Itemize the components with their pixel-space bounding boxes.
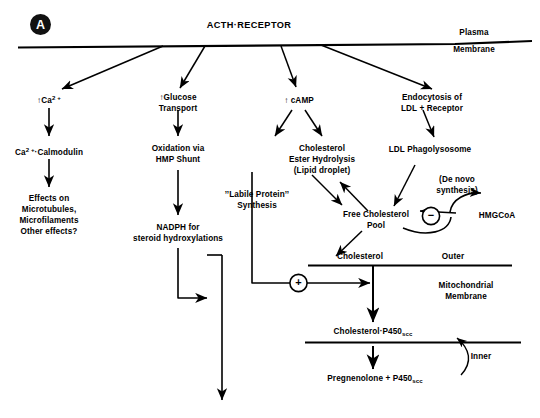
- node-cholesterol-p450scc-text: Cholesterol·P450: [334, 327, 403, 336]
- node-labile-protein-line1: ’’Labile Protein’’: [225, 190, 289, 201]
- mitochondrial-membrane-label-line2: Membrane: [445, 292, 487, 303]
- node-cholesterol-ester-line2: Ester Hydrolysis: [289, 155, 355, 166]
- positive-sign-glyph: +: [295, 277, 302, 288]
- node-hmgcoa: HMGCoA: [479, 211, 516, 222]
- node-calcium-superscript: 2 +: [52, 94, 61, 101]
- node-ldl-phagolysosome: LDL Phagolysosome: [389, 145, 472, 156]
- node-endocytosis-line2: LDL + Receptor: [401, 104, 463, 115]
- node-effects-line1: Effects on: [29, 194, 70, 205]
- node-calmodulin-suffix: ·Calmodulin: [35, 148, 83, 157]
- arrow-membrane-to-glucose: [180, 46, 205, 88]
- node-pregnenolone-text: Pregnenolone + P450: [327, 374, 412, 383]
- arrow-membrane-to-camp: [281, 46, 296, 87]
- node-cholesterol-ester-line1: Cholesterol: [299, 144, 345, 155]
- figure-title: ACTH·RECEPTOR: [207, 20, 292, 31]
- plasma-membrane-label-bottom: Membrane: [453, 45, 495, 56]
- node-effects-line4: Other effects?: [21, 227, 78, 238]
- node-endocytosis-line1: Endocytosis of: [402, 93, 462, 104]
- outer-membrane-label: Outer: [442, 252, 464, 263]
- node-camp: ↑ cAMP: [284, 96, 314, 107]
- panel-label-badge: A: [30, 14, 51, 35]
- arrow-nadph-to-spine: [178, 248, 207, 298]
- node-calmodulin-prefix: Ca: [15, 148, 26, 157]
- node-cholesterol-outer: Cholesterol: [337, 252, 383, 263]
- node-effects-line3: Microfilaments: [19, 216, 78, 227]
- node-glucose-transport-line2: Transport: [159, 104, 198, 115]
- node-free-cholesterol-pool-line2: Pool: [367, 221, 385, 232]
- line-labile-protein-spine: [252, 172, 290, 283]
- arrow-ester-hydrolysis-to-pool: [312, 175, 342, 205]
- node-effects-line2: Microtubules,: [22, 205, 77, 216]
- node-nadph-line2: steroid hydroxylations: [133, 234, 223, 245]
- arrow-phagolysosome-to-pool: [394, 165, 415, 206]
- plasma-membrane-label-top: Plasma: [459, 28, 488, 39]
- arrow-membrane-to-calcium: [62, 46, 163, 89]
- node-labile-protein-line2: Synthesis: [237, 201, 277, 212]
- arrow-pool-to-ester-hydrolysis: [340, 182, 368, 211]
- node-calmodulin-superscript: 2 +: [26, 146, 35, 153]
- arrow-camp-to-cholesterol-ester: [305, 110, 322, 136]
- node-glucose-transport-line1: ↑Glucose: [159, 93, 196, 104]
- node-oxidation-line2: HMP Shunt: [156, 155, 200, 166]
- node-de-novo-line1: (De novo: [439, 175, 475, 186]
- node-calcium: ↑Ca2 +: [37, 93, 61, 107]
- node-calmodulin: Ca2 +·Calmodulin: [15, 145, 83, 159]
- node-cholesterol-ester-line3: (Lipid droplet): [294, 166, 351, 177]
- node-free-cholesterol-pool-line1: Free Cholesterol: [343, 210, 409, 221]
- node-cholesterol-p450scc: Cholesterol·P450scc: [334, 327, 413, 340]
- node-calcium-text: ↑Ca: [37, 96, 52, 105]
- node-de-novo-line2: synthesis): [436, 186, 478, 197]
- node-oxidation-line1: Oxidation via: [152, 144, 205, 155]
- figure-panel: A ACTH·RECEPTOR Plasma Membrane ↑Ca2 + C…: [0, 0, 540, 418]
- negative-sign-glyph: −: [428, 210, 435, 221]
- node-pregnenolone: Pregnenolone + P450scc: [327, 374, 422, 387]
- inner-membrane-label: Inner: [471, 352, 492, 363]
- node-cholesterol-p450scc-subscript: scc: [402, 330, 412, 337]
- arrow-membrane-to-endocytosis: [321, 45, 432, 89]
- arrow-camp-to-labile-protein: [275, 110, 292, 136]
- node-nadph-line1: NADPH for: [156, 223, 199, 234]
- mitochondrial-membrane-label-line1: Mitochondrial: [439, 281, 494, 292]
- node-pregnenolone-subscript: scc: [412, 377, 422, 384]
